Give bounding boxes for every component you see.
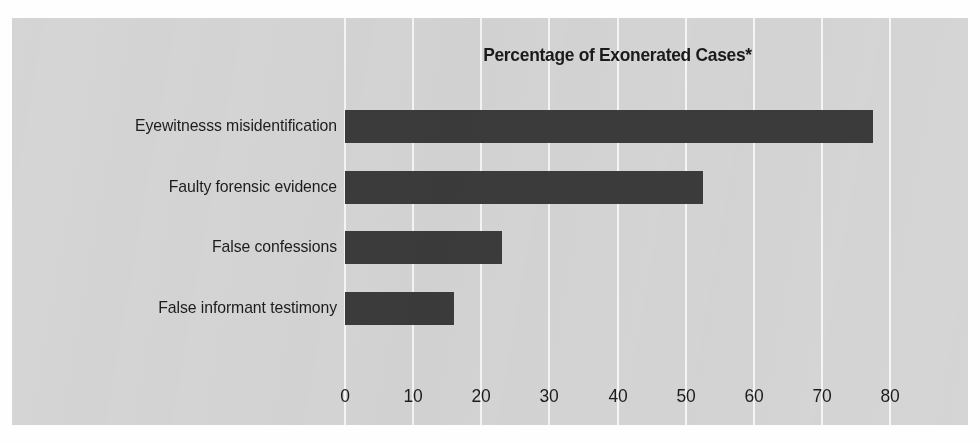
tick-label-10: 10 bbox=[404, 385, 423, 407]
figure-page: Percentage of Exonerated Cases* Eyewitne… bbox=[0, 0, 980, 444]
bar-3 bbox=[345, 292, 454, 325]
category-axis-labels: Eyewitnesss misidentificationFaulty fore… bbox=[12, 18, 337, 425]
tick-label-0: 0 bbox=[340, 385, 349, 407]
category-label-2: False confessions bbox=[30, 237, 337, 257]
category-label-0: Eyewitnesss misidentification bbox=[30, 116, 337, 136]
bar-2 bbox=[345, 231, 502, 264]
tick-label-70: 70 bbox=[812, 385, 831, 407]
tick-label-50: 50 bbox=[676, 385, 695, 407]
chart-panel: Percentage of Exonerated Cases* Eyewitne… bbox=[12, 18, 968, 425]
tick-label-30: 30 bbox=[540, 385, 559, 407]
tick-label-60: 60 bbox=[744, 385, 763, 407]
chart-title: Percentage of Exonerated Cases* bbox=[361, 44, 873, 66]
category-label-3: False informant testimony bbox=[30, 298, 337, 318]
plot-area: Percentage of Exonerated Cases* bbox=[345, 18, 890, 425]
category-label-1: Faulty forensic evidence bbox=[30, 177, 337, 197]
bar-1 bbox=[345, 171, 703, 204]
bar-0 bbox=[345, 110, 873, 143]
tick-label-20: 20 bbox=[472, 385, 491, 407]
x-axis-tick-labels: 01020304050607080 bbox=[345, 385, 890, 415]
tick-label-80: 80 bbox=[881, 385, 900, 407]
tick-label-40: 40 bbox=[608, 385, 627, 407]
